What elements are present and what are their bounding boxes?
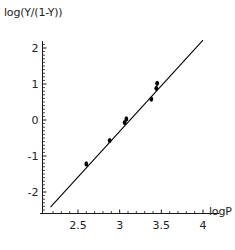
y-axis-tick-label-4: -2 xyxy=(28,186,39,199)
data-point-0 xyxy=(84,161,88,166)
y-axis-tick-label-2: 0 xyxy=(32,114,39,127)
x-axis-tick-label-2: 3.5 xyxy=(153,219,171,232)
y-axis-tick-label-3: -1 xyxy=(28,150,39,163)
data-point-1 xyxy=(108,138,112,143)
data-point-6 xyxy=(155,81,159,86)
x-axis-tick-label-0: 2.5 xyxy=(69,219,87,232)
x-axis-tick-label-1: 3 xyxy=(116,219,123,232)
regression-line-path xyxy=(51,40,204,207)
data-point-3 xyxy=(124,116,128,121)
chart-figure: log(Y/(1-Y)) logP 2.533.54210-1-2 xyxy=(0,0,235,250)
x-axis-ticks xyxy=(78,210,203,214)
data-points xyxy=(84,81,159,167)
data-point-5 xyxy=(154,86,158,91)
y-axis-tick-label-1: 1 xyxy=(32,78,39,91)
x-axis-label: logP xyxy=(209,205,232,218)
y-axis-minor-ticks xyxy=(43,44,46,210)
data-point-4 xyxy=(149,97,153,102)
axis-lines xyxy=(40,41,219,214)
regression-line xyxy=(51,40,204,207)
x-axis-tick-label-3: 4 xyxy=(200,219,207,232)
y-axis-tick-label-0: 2 xyxy=(32,42,39,55)
